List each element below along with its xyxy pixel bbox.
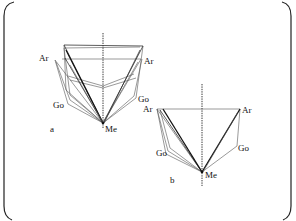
panel-a-go-right-label: Go — [138, 94, 149, 104]
panel-b-label: b — [170, 175, 175, 185]
panel-a-me-label: Me — [105, 124, 117, 134]
panel-b-go-left-label: Go — [156, 148, 167, 158]
panel-b-me-label: Me — [205, 170, 217, 180]
panel-b-go-right-label: Go — [238, 143, 249, 153]
panel-a-label: a — [50, 124, 54, 134]
mandible-diagram-figure: Ar Ar Go Go Me a Ar Ar Go Go Me b — [0, 0, 296, 221]
panel-a-go-left-label: Go — [53, 100, 64, 110]
panel-a-ar-left-label: Ar — [39, 53, 49, 63]
panel-b-ar-right-label: Ar — [242, 105, 252, 115]
panel-a-ar-right-label: Ar — [144, 56, 154, 66]
panel-b-diagram: Ar Ar Go Go Me b — [143, 84, 252, 186]
panel-b-ar-left-label: Ar — [143, 104, 153, 114]
panel-a-diagram: Ar Ar Go Go Me a — [39, 33, 154, 134]
